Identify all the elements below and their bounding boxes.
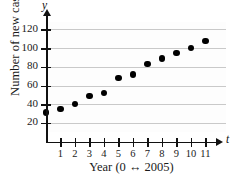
x-axis-variable-label: t [226, 133, 229, 145]
data-point [188, 45, 194, 51]
gridline [46, 48, 226, 49]
data-point [173, 50, 179, 56]
data-point [130, 71, 136, 77]
gridline [46, 29, 226, 30]
data-point [57, 106, 63, 112]
x-axis-tick [191, 138, 192, 147]
gridline [46, 86, 226, 87]
data-point [72, 101, 78, 107]
y-axis-tick-label: 100 [22, 41, 39, 53]
x-axis-tick [118, 138, 119, 147]
data-point [101, 90, 107, 96]
data-point [86, 93, 92, 99]
plot-area [46, 22, 226, 132]
x-axis-tick [176, 138, 177, 147]
y-axis-tick-label: 80 [27, 59, 38, 71]
gridline [46, 67, 226, 68]
data-point [202, 38, 208, 44]
y-axis-tick-label: 60 [27, 78, 38, 90]
y-axis-variable-label: y [42, 0, 47, 11]
x-axis-tick [205, 138, 206, 147]
x-axis-tick [75, 138, 76, 147]
data-point [115, 75, 121, 81]
y-axis-tick: 20 [41, 123, 51, 124]
data-point [159, 55, 165, 61]
plot-right-edge [225, 22, 226, 132]
x-axis-tick [162, 138, 163, 147]
x-axis-tick [104, 138, 105, 147]
y-axis-tick-label: 120 [22, 22, 39, 34]
x-axis-tick [133, 138, 134, 147]
x-axis-tick [89, 138, 90, 147]
gridline [46, 123, 226, 124]
data-point [144, 61, 150, 67]
scatter-plot-figure: Number of new cases y t 20406080100120 1… [0, 0, 237, 179]
y-axis-tick-label: 40 [27, 97, 38, 109]
x-axis-tick [147, 138, 148, 147]
y-axis-tick: 120 [41, 29, 51, 30]
y-axis-tick: 80 [41, 67, 51, 68]
x-axis-title: Year (0 ↔ 2005) [46, 160, 217, 175]
y-axis-tick-label: 20 [27, 115, 38, 127]
y-axis-tick: 40 [41, 104, 51, 105]
x-axis-tick-label: 11 [194, 148, 216, 159]
y-axis-tick: 60 [41, 86, 51, 87]
x-axis-arrowhead-icon [216, 138, 223, 146]
x-axis-tick [60, 138, 61, 147]
y-axis-tick: 100 [41, 48, 51, 49]
